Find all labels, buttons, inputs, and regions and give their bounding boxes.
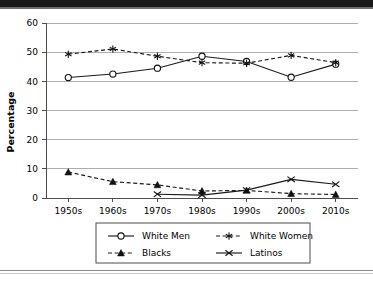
x-axis-tick-labels: 1950s1960s1970s1980s1990s2000s2010s bbox=[54, 206, 349, 216]
page-bottom-rule-secondary bbox=[0, 273, 373, 274]
data-point-white-men-1960s bbox=[110, 71, 116, 77]
axes bbox=[42, 23, 358, 202]
chart-container: 0102030405060 1950s1960s1970s1980s1990s2… bbox=[0, 9, 373, 269]
legend-label-white-women: White Women bbox=[250, 231, 313, 241]
chart-page: 0102030405060 1950s1960s1970s1980s1990s2… bbox=[0, 0, 373, 284]
data-point-white-men-1970s bbox=[154, 65, 160, 71]
x-tick-label-1980s: 1980s bbox=[188, 206, 216, 216]
data-point-white-men-2000s bbox=[288, 74, 294, 80]
scan-band-top bbox=[0, 0, 373, 7]
x-tick-label-1970s: 1970s bbox=[144, 206, 172, 216]
series-white-men bbox=[65, 53, 339, 80]
legend-label-blacks: Blacks bbox=[142, 248, 171, 258]
data-point-white-men-1950s bbox=[65, 74, 71, 80]
x-tick-label-2010s: 2010s bbox=[322, 206, 350, 216]
y-tick-label-10: 10 bbox=[27, 164, 39, 174]
y-tick-label-30: 30 bbox=[27, 106, 39, 116]
legend-label-latinos: Latinos bbox=[250, 248, 283, 258]
data-series-layer bbox=[65, 46, 339, 198]
legend-label-white-men: White Men bbox=[142, 231, 190, 241]
y-axis-title: Percentage bbox=[5, 91, 16, 152]
data-point-blacks-1950s bbox=[65, 169, 72, 175]
page-bottom-rule bbox=[0, 270, 373, 271]
y-tick-label-20: 20 bbox=[27, 135, 39, 145]
legend-marker-white-men bbox=[118, 233, 124, 239]
series-blacks bbox=[65, 169, 339, 198]
x-tick-label-1990s: 1990s bbox=[233, 206, 261, 216]
y-tick-label-50: 50 bbox=[27, 47, 39, 57]
y-tick-label-60: 60 bbox=[27, 18, 39, 28]
chart-legend: White MenWhite WomenBlacksLatinos bbox=[96, 223, 313, 263]
grid-lines bbox=[46, 23, 358, 198]
x-tick-label-2000s: 2000s bbox=[277, 206, 305, 216]
line-chart: 0102030405060 1950s1960s1970s1980s1990s2… bbox=[0, 9, 373, 269]
y-axis-tick-labels: 0102030405060 bbox=[27, 18, 39, 203]
y-tick-label-40: 40 bbox=[27, 77, 39, 87]
x-tick-label-1950s: 1950s bbox=[54, 206, 82, 216]
data-point-white-men-1980s bbox=[199, 53, 205, 59]
x-tick-label-1960s: 1960s bbox=[99, 206, 127, 216]
y-tick-label-0: 0 bbox=[32, 193, 38, 203]
